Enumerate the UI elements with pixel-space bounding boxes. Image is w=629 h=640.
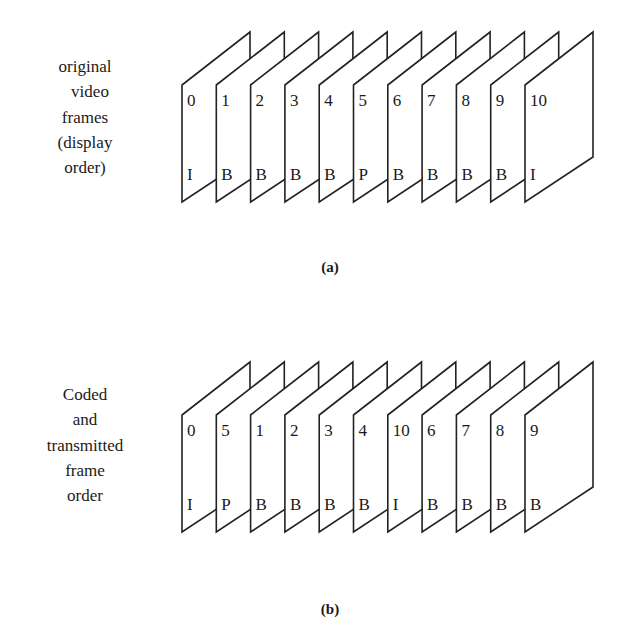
frame-type: B — [221, 165, 232, 184]
frame-number: 6 — [393, 91, 402, 110]
frame-type: B — [290, 495, 301, 514]
frame-type: B — [393, 165, 404, 184]
frame-number: 4 — [324, 91, 333, 110]
frame-type: B — [461, 165, 472, 184]
frame-type: B — [256, 165, 267, 184]
frame-type: B — [256, 495, 267, 514]
frame-type: B — [496, 495, 507, 514]
frame-number: 5 — [359, 91, 368, 110]
caption-a: (a) — [310, 259, 350, 276]
frame-type: B — [324, 495, 335, 514]
frame-number: 8 — [496, 421, 505, 440]
frame-type: I — [187, 495, 193, 514]
frame-type: B — [496, 165, 507, 184]
frame-number: 6 — [427, 421, 436, 440]
frame-number: 7 — [427, 91, 436, 110]
frame-type: P — [359, 165, 368, 184]
frame-type: B — [427, 495, 438, 514]
frame-number: 4 — [359, 421, 368, 440]
frame-number: 7 — [461, 421, 470, 440]
frame-number: 10 — [530, 91, 547, 110]
frame-number: 2 — [256, 91, 265, 110]
caption-b: (b) — [310, 601, 350, 618]
display-order-frame-stack: 0I1B2B3B4B5P6B7B8B9B10I — [182, 32, 593, 202]
frame-number: 5 — [221, 421, 230, 440]
frame-type: I — [393, 495, 399, 514]
frame-type: B — [530, 495, 541, 514]
frame-type: P — [221, 495, 230, 514]
frame-type: B — [290, 165, 301, 184]
frame-number: 3 — [290, 91, 299, 110]
frame-number: 10 — [393, 421, 410, 440]
frame-number: 0 — [187, 421, 196, 440]
frame-number: 2 — [290, 421, 299, 440]
frame-number: 9 — [496, 91, 505, 110]
frame-number: 1 — [256, 421, 265, 440]
frame-type: I — [187, 165, 193, 184]
frame-type: I — [530, 165, 536, 184]
frame-number: 8 — [461, 91, 470, 110]
frame-number: 9 — [530, 421, 539, 440]
frame-type: B — [359, 495, 370, 514]
frame-number: 1 — [221, 91, 230, 110]
frame-type: B — [324, 165, 335, 184]
frame-type: B — [461, 495, 472, 514]
frame-type: B — [427, 165, 438, 184]
frame-number: 0 — [187, 91, 196, 110]
transmitted-order-frame-stack: 0I5P1B2B3B4B10I6B7B8B9B — [182, 362, 593, 532]
frame-diagrams: 0I1B2B3B4B5P6B7B8B9B10I 0I5P1B2B3B4B10I6… — [0, 0, 629, 640]
frame-number: 3 — [324, 421, 333, 440]
